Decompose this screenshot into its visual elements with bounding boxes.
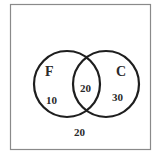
set-f-label: F (45, 64, 54, 79)
venn-diagram: F C 10 20 30 20 (0, 0, 159, 160)
f-only-value: 10 (46, 94, 58, 106)
c-only-value: 30 (112, 91, 124, 103)
outside-value: 20 (74, 126, 86, 138)
set-c-label: C (116, 64, 126, 79)
intersection-value: 20 (80, 82, 92, 94)
